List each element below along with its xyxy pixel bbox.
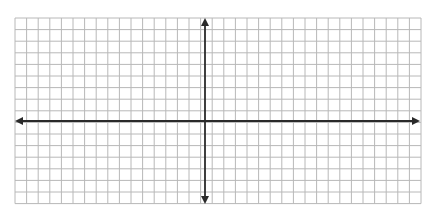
- x-axis-right-arrow-icon: [412, 117, 420, 125]
- y-axis-up-arrow-icon: [201, 18, 209, 26]
- coordinate-plane: [0, 0, 434, 214]
- x-axis-left-arrow-icon: [15, 117, 23, 125]
- y-axis-down-arrow-icon: [201, 196, 209, 204]
- grid-lines: [15, 18, 421, 204]
